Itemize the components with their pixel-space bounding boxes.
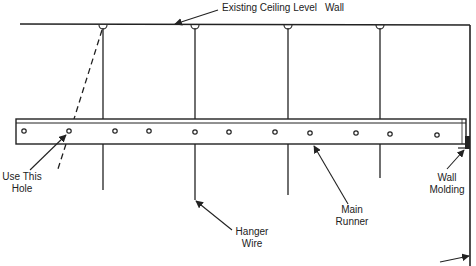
hole	[22, 129, 26, 133]
hole	[308, 131, 312, 135]
label-hanger-wire: Hanger Wire	[230, 226, 274, 250]
label-main-runner-line1: Main	[330, 204, 374, 216]
label-main-runner-line2: Runner	[330, 216, 374, 228]
label-wall-molding-line1: Wall	[424, 172, 470, 184]
label-main-runner: Main Runner	[330, 204, 374, 228]
hanger-anchors	[99, 25, 384, 29]
arrow-main-runner	[314, 146, 348, 204]
hanger-wires	[103, 28, 380, 200]
label-wall-molding-line2: Molding	[424, 184, 470, 196]
hole	[113, 129, 117, 133]
existing-ceiling-line	[20, 24, 470, 25]
label-use-this-hole-line1: Use This	[0, 171, 44, 183]
label-wall-top: Wall	[325, 2, 344, 14]
main-runner	[16, 119, 466, 144]
angled-wire-dashed	[74, 30, 102, 119]
hole	[147, 129, 151, 133]
arrow-hanger-wire	[196, 201, 232, 230]
hole	[435, 133, 439, 137]
label-use-this-hole-line2: Hole	[0, 183, 44, 195]
label-use-this-hole: Use This Hole	[0, 171, 44, 195]
hole-use-this	[67, 129, 71, 133]
angled-wire-dashed-below	[57, 144, 66, 172]
hole	[388, 132, 392, 136]
label-existing-ceiling-level: Existing Ceiling Level	[222, 2, 317, 14]
hole	[354, 131, 358, 135]
hole	[273, 130, 277, 134]
label-hanger-wire-line2: Wire	[230, 238, 274, 250]
hole	[193, 130, 197, 134]
label-wall-molding: Wall Molding	[424, 172, 470, 196]
arrow-wall-molding	[447, 150, 464, 169]
arrow-wall	[440, 256, 469, 262]
label-hanger-wire-line1: Hanger	[230, 226, 274, 238]
arrow-ceiling	[175, 10, 218, 24]
hole	[227, 130, 231, 134]
